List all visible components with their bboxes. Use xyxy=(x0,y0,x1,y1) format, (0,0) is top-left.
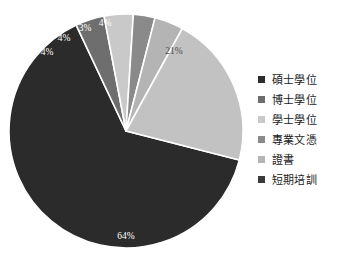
chart-legend: 碩士學位博士學位學士學位專業文憑證書短期培訓 xyxy=(258,69,344,189)
pie-slice-label: 4% xyxy=(58,33,71,43)
legend-item-label: 短期培訓 xyxy=(272,171,317,187)
pie-plot-area: 64%4%4%3%4%21% xyxy=(0,0,252,264)
legend-swatch-icon xyxy=(258,176,265,183)
legend-item-label: 證書 xyxy=(272,151,294,167)
pie-slice-label: 4% xyxy=(99,18,112,28)
legend-item[interactable]: 短期培訓 xyxy=(258,169,344,189)
legend-item[interactable]: 證書 xyxy=(258,149,344,169)
legend-swatch-icon xyxy=(258,76,265,83)
legend-swatch-icon xyxy=(258,156,265,163)
legend-item[interactable]: 學士學位 xyxy=(258,109,344,129)
legend-item-label: 專業文憑 xyxy=(272,131,317,147)
legend-item-label: 博士學位 xyxy=(272,91,317,107)
legend-swatch-icon xyxy=(258,116,265,123)
pie-slice-label: 3% xyxy=(79,23,92,33)
legend-item-label: 學士學位 xyxy=(272,111,317,127)
legend-item[interactable]: 專業文憑 xyxy=(258,129,344,149)
pie-slice-label: 64% xyxy=(117,231,135,241)
legend-item[interactable]: 碩士學位 xyxy=(258,69,344,89)
legend-swatch-icon xyxy=(258,136,265,143)
pie-chart-figure: 64%4%4%3%4%21% 碩士學位博士學位學士學位專業文憑證書短期培訓 xyxy=(0,0,344,264)
legend-item-label: 碩士學位 xyxy=(272,71,317,87)
legend-swatch-icon xyxy=(258,96,265,103)
pie-slice-label: 4% xyxy=(41,47,54,57)
pie-slice-label: 21% xyxy=(165,46,183,56)
legend-item[interactable]: 博士學位 xyxy=(258,89,344,109)
pie-svg: 64%4%4%3%4%21% xyxy=(0,0,252,264)
